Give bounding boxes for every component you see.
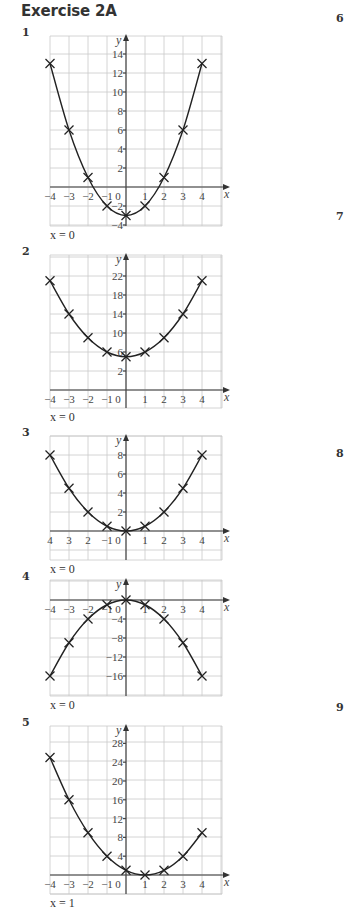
x-tick-label: −4	[44, 878, 56, 890]
x-tick-label: 0	[115, 878, 121, 890]
y-tick-label: 4	[118, 850, 124, 862]
x-tick-label: −3	[63, 878, 75, 890]
x-tick-label: 1	[142, 878, 148, 890]
x-tick-label: −1	[101, 878, 113, 890]
y-axis-label: y	[115, 723, 122, 737]
y-tick-label: 12	[112, 813, 123, 825]
y-tick-label: 20	[112, 775, 124, 787]
x-tick-label: 2	[161, 878, 167, 890]
grid	[50, 726, 222, 894]
y-tick-label: 8	[118, 831, 124, 843]
answer-line-of-symmetry: x = 1	[50, 896, 75, 911]
x-axis-label: x	[223, 875, 230, 889]
y-tick-label: 16	[112, 794, 124, 806]
y-axis-arrow-icon	[123, 724, 129, 731]
y-tick-label: 28	[112, 737, 124, 749]
x-tick-label: −2	[82, 878, 94, 890]
x-tick-label: 4	[199, 878, 205, 890]
x-tick-label: 3	[180, 878, 186, 890]
y-tick-label: 24	[112, 756, 124, 768]
graph-5: xy−4−3−2−101234282420161284	[0, 0, 348, 911]
